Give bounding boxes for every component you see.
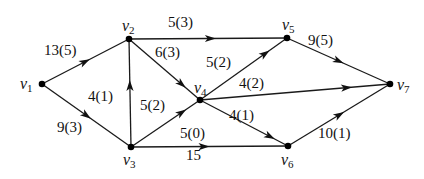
node-label-subscript: 4 — [201, 86, 207, 98]
node-label-subscript: 1 — [27, 82, 33, 94]
node-v1 — [39, 81, 46, 88]
node-label-v2: v2 — [122, 17, 135, 36]
arrowhead-icon — [333, 112, 344, 121]
arrowhead-icon — [80, 109, 91, 118]
node-label-subscript: 2 — [129, 24, 135, 36]
edge-v4-v7 — [200, 84, 390, 100]
node-label-subscript: 5 — [289, 23, 295, 35]
edge-label: 13(5) — [44, 42, 77, 59]
edge-v3-v6 — [131, 143, 288, 150]
arrowhead-icon — [263, 131, 274, 139]
edge-label: 10(1) — [318, 125, 351, 142]
node-v7 — [387, 81, 394, 88]
edge-label: 4(1) — [88, 88, 113, 105]
node-label-v3: v3 — [123, 151, 136, 170]
node-label-v4: v4 — [194, 79, 207, 98]
node-v5 — [284, 35, 291, 42]
edge-line — [129, 39, 131, 147]
edge-label: 4(1) — [229, 107, 254, 124]
node-label-v5: v5 — [282, 16, 295, 35]
arrowhead-icon — [175, 109, 186, 118]
edge-label: 6(3) — [155, 44, 180, 61]
edge-v2-v5 — [129, 35, 287, 42]
edge-label: 5(2) — [140, 97, 165, 114]
edge-label: 9(3) — [57, 119, 82, 136]
node-label-subscript: 7 — [404, 83, 410, 95]
node-label-subscript: 3 — [130, 158, 136, 170]
arrowhead-icon — [78, 59, 89, 67]
node-label-v6: v6 — [281, 151, 294, 170]
edge-label: 9(5) — [308, 32, 333, 49]
edge-label: 5(2) — [206, 54, 231, 71]
arrowhead-icon — [259, 50, 270, 59]
network-diagram: 13(5)9(3)4(1)5(3)6(3)5(2)5(2)4(2)4(1)5(0… — [0, 0, 424, 179]
edge-line — [200, 84, 390, 100]
edge-v1-v3 — [42, 84, 131, 147]
node-label-v1: v1 — [20, 75, 33, 94]
edge-v5-v7 — [287, 38, 390, 84]
edge-capacity-label: 15 — [186, 147, 201, 163]
node-v2 — [126, 36, 133, 43]
edge-label: 5(0) — [180, 125, 205, 142]
edge-v3-v2 — [126, 39, 133, 147]
node-v6 — [285, 143, 292, 150]
node-v3 — [128, 144, 135, 151]
edge-label: 4(2) — [239, 75, 264, 92]
node-label-v7: v7 — [397, 76, 410, 95]
node-label-subscript: 6 — [288, 158, 294, 170]
edge-label: 5(3) — [168, 14, 193, 31]
